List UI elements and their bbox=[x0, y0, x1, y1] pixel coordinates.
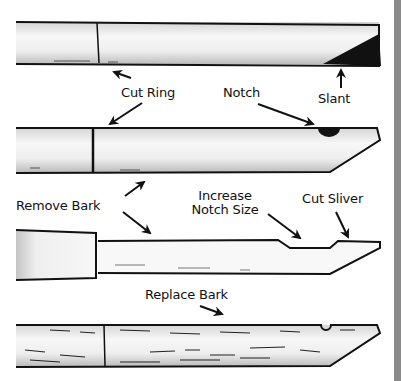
stick-stage-2 bbox=[16, 128, 380, 173]
label-notch: Notch bbox=[223, 86, 260, 100]
label-cut-sliver: Cut Sliver bbox=[302, 192, 363, 206]
arrow-remove-bark-up bbox=[125, 182, 144, 196]
label-cut-ring: Cut Ring bbox=[121, 86, 175, 100]
bark-section bbox=[16, 230, 96, 280]
stick-stage-1 bbox=[16, 22, 381, 66]
arrow-cut-ring-up bbox=[114, 72, 131, 78]
label-increase-line2: Notch Size bbox=[180, 203, 270, 217]
page-edge-bar bbox=[394, 0, 401, 381]
arrow-cut-ring-down bbox=[110, 103, 142, 124]
arrow-cut-sliver bbox=[336, 212, 348, 237]
arrow-remove-bark-down bbox=[123, 212, 150, 233]
label-replace-bark: Replace Bark bbox=[145, 288, 228, 302]
arrow-notch bbox=[258, 104, 313, 124]
label-increase-line1: Increase bbox=[180, 189, 270, 203]
arrow-replace-bark bbox=[200, 306, 222, 314]
label-increase-notch-size: Increase Notch Size bbox=[180, 189, 270, 217]
stick-stage-4 bbox=[16, 325, 380, 367]
label-slant: Slant bbox=[318, 92, 350, 106]
label-remove-bark: Remove Bark bbox=[16, 199, 100, 213]
stick-stage-3 bbox=[16, 230, 380, 280]
arrow-increase-notch bbox=[268, 214, 300, 238]
